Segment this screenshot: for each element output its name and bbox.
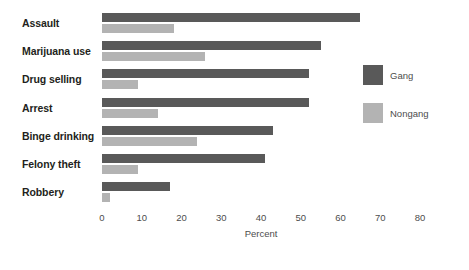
x-tick-label: 20 xyxy=(176,212,187,223)
bar-nongang xyxy=(102,165,138,174)
legend-entry: Nongang xyxy=(363,103,463,133)
legend-entry: Gang xyxy=(363,65,463,95)
category-axis: AssaultMarijuana useDrug sellingArrestBi… xyxy=(0,10,96,207)
category-label: Robbery xyxy=(0,186,92,198)
bar-gang xyxy=(102,126,273,135)
bar-nongang xyxy=(102,109,158,118)
legend-label: Gang xyxy=(390,70,413,81)
bar-nongang xyxy=(102,24,174,33)
legend-swatch xyxy=(363,65,383,85)
bar-nongang xyxy=(102,52,205,61)
chart-legend: GangNongang xyxy=(363,65,463,141)
bar-nongang xyxy=(102,137,197,146)
x-tick-label: 10 xyxy=(136,212,147,223)
x-tick-label: 50 xyxy=(295,212,306,223)
legend-swatch xyxy=(363,103,383,123)
category-label: Drug selling xyxy=(0,73,92,85)
bar-nongang xyxy=(102,193,110,202)
bar-chart: AssaultMarijuana useDrug sellingArrestBi… xyxy=(0,0,469,270)
x-tick-label: 30 xyxy=(216,212,227,223)
bar-nongang xyxy=(102,80,138,89)
x-tick-label: 80 xyxy=(415,212,426,223)
category-label: Binge drinking xyxy=(0,130,92,142)
legend-label: Nongang xyxy=(390,108,429,119)
x-axis-title: Percent xyxy=(102,228,420,239)
bar-gang xyxy=(102,69,309,78)
x-tick-label: 70 xyxy=(375,212,386,223)
category-label: Marijuana use xyxy=(0,45,92,57)
category-label: Felony theft xyxy=(0,158,92,170)
x-tick-label: 40 xyxy=(256,212,267,223)
bar-gang xyxy=(102,13,360,22)
x-tick-label: 0 xyxy=(99,212,104,223)
bar-gang xyxy=(102,98,309,107)
bar-gang xyxy=(102,182,170,191)
bar-gang xyxy=(102,154,265,163)
category-label: Assault xyxy=(0,17,92,29)
category-label: Arrest xyxy=(0,102,92,114)
x-tick-label: 60 xyxy=(335,212,346,223)
bar-gang xyxy=(102,41,321,50)
